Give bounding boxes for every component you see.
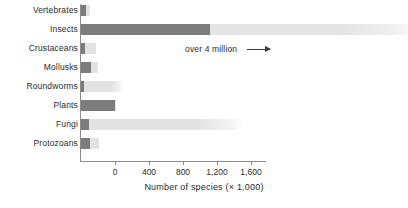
annotation-right-arrow-icon — [247, 49, 270, 50]
bar-segment-dark-crustaceans — [81, 43, 85, 54]
x-tick-mark-0 — [115, 161, 116, 165]
bar-row-vertebrates — [81, 5, 408, 16]
category-label-crustaceans: Crustaceans — [0, 43, 78, 53]
category-label-fungi: Fungi — [0, 119, 78, 129]
bar-segment-dark-roundworms — [81, 81, 84, 92]
x-tick-label-1200: 1,200 — [206, 167, 227, 177]
x-tick-mark-400 — [149, 161, 150, 165]
x-tick-label-400: 400 — [142, 167, 156, 177]
category-label-mollusks: Mollusks — [0, 62, 78, 72]
bar-segment-dark-mollusks — [81, 62, 91, 73]
bar-segment-light-roundworms — [81, 81, 123, 92]
category-label-plants: Plants — [0, 100, 78, 110]
bar-segment-dark-plants — [81, 100, 115, 111]
bar-row-roundworms — [81, 81, 408, 92]
category-label-protozoans: Protozoans — [0, 138, 78, 148]
x-axis-line — [80, 161, 266, 162]
bar-segment-dark-fungi — [81, 119, 89, 130]
x-tick-mark-800 — [183, 161, 184, 165]
bar-row-plants — [81, 100, 408, 111]
bar-segment-light-fungi — [81, 119, 243, 130]
bar-row-insects — [81, 24, 408, 35]
category-label-vertebrates: Vertebrates — [0, 5, 78, 15]
x-tick-label-800: 800 — [176, 167, 190, 177]
x-tick-mark-1600 — [251, 161, 252, 165]
bar-row-fungi — [81, 119, 408, 130]
category-label-insects: Insects — [0, 24, 78, 34]
bar-segment-dark-protozoans — [81, 138, 90, 149]
x-axis-title: Number of species (× 1,000) — [0, 182, 408, 192]
annotation-over-4-million: over 4 million — [185, 44, 237, 54]
bar-row-crustaceans — [81, 43, 408, 54]
plot-area — [81, 4, 408, 160]
x-axis-title-text: Number of species (× 1,000) — [144, 182, 263, 192]
bar-segment-dark-insects — [81, 24, 210, 35]
bar-segment-dark-vertebrates — [81, 5, 86, 16]
species-bar-chart: Vertebrates Insects Crustaceans Mollusks… — [0, 0, 408, 208]
category-label-roundworms: Roundworms — [0, 81, 78, 91]
bar-row-protozoans — [81, 138, 408, 149]
x-tick-mark-1200 — [217, 161, 218, 165]
x-tick-label-1600: 1,600 — [240, 167, 261, 177]
x-tick-label-0: 0 — [113, 167, 118, 177]
y-axis-line — [80, 4, 81, 161]
bar-row-mollusks — [81, 62, 408, 73]
